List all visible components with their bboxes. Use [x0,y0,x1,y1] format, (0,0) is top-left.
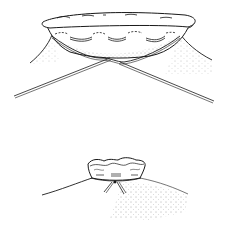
panel-top-illustration [0,0,231,116]
purse-string-suture-tied-drawing [0,116,231,232]
panel-bottom-illustration [0,116,231,232]
purse-string-suture-open-drawing [0,0,231,116]
